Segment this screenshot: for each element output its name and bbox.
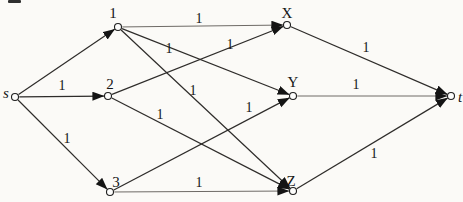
edge-1-Z (121, 30, 290, 188)
edge-2-X (112, 27, 283, 95)
node-X (284, 22, 291, 29)
node-label-Z: Z (286, 173, 295, 189)
node-s (12, 94, 19, 101)
edge-label-2-Z: 1 (157, 107, 164, 122)
edge-1-Y (122, 29, 289, 95)
edge-label-1-Y: 1 (166, 41, 173, 56)
node-label-Y: Y (288, 74, 299, 90)
edge-Z-t (297, 98, 448, 189)
flow-network-diagram: 111111111111s123XYZt (0, 0, 463, 202)
edge-s-1 (19, 29, 115, 94)
edge-label-s-3: 1 (64, 131, 71, 146)
node-label-X: X (282, 5, 293, 21)
node-2 (105, 93, 112, 100)
edge-label-Y-t: 1 (353, 77, 360, 92)
node-Y (290, 93, 297, 100)
edge-1-X (122, 25, 283, 27)
edge-label-s-2: 1 (59, 78, 66, 93)
node-label-2: 2 (106, 76, 114, 92)
node-label-s: s (3, 85, 9, 101)
scan-artifact-mark (8, 0, 21, 3)
node-label-t: t (458, 89, 463, 105)
node-label-1: 1 (109, 5, 117, 21)
node-label-3: 3 (112, 174, 120, 190)
edge-label-1-Z: 1 (190, 83, 197, 98)
edge-label-Z-t: 1 (371, 146, 378, 161)
edge-label-3-Z: 1 (196, 175, 203, 190)
edge-label-X-t: 1 (363, 40, 370, 55)
node-t (448, 93, 455, 100)
edge-s-2 (19, 96, 104, 97)
edge-label-3-Y: 1 (246, 100, 253, 115)
edge-label-2-X: 1 (227, 37, 234, 52)
edge-3-Z (114, 191, 289, 192)
node-1 (115, 24, 122, 31)
edge-X-t (291, 27, 447, 95)
edge-label-1-X: 1 (196, 11, 203, 26)
graph-svg: 111111111111s123XYZt (0, 0, 463, 202)
